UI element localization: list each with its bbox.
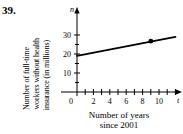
x-axis-caption-line-1: Number of years	[55, 110, 183, 120]
y-tick-label-30: 30	[63, 31, 71, 40]
y-axis-variable-label: n	[70, 5, 74, 14]
x-tick-label-8: 8	[141, 97, 145, 106]
x-tick-label-6: 6	[124, 97, 128, 106]
y-axis-label-line-1: Number of full-time	[22, 47, 31, 110]
x-tick-label-10: 10	[155, 97, 163, 106]
line-chart-plot: n t 30 20 10 0 2 4 6 8 10	[55, 0, 183, 110]
data-series-line	[77, 37, 175, 56]
x-axis-variable-label: t	[177, 96, 180, 105]
x-axis-caption-line-2: since 2001	[55, 120, 183, 130]
y-axis-label-line-2: workers without health	[32, 38, 41, 110]
x-axis	[61, 89, 182, 94]
y-axis-label-line-3: insurance (in millions)	[42, 40, 51, 110]
figure-container: 39. Number of full-time workers without …	[0, 0, 183, 134]
x-tick-label-4: 4	[108, 97, 112, 106]
problem-number: 39.	[2, 4, 16, 16]
y-tick-label-0: 0	[69, 97, 73, 106]
y-tick-label-10: 10	[63, 69, 71, 78]
y-tick-label-20: 20	[63, 50, 71, 59]
x-tick-label-2: 2	[91, 97, 95, 106]
data-point-marker	[148, 39, 153, 44]
